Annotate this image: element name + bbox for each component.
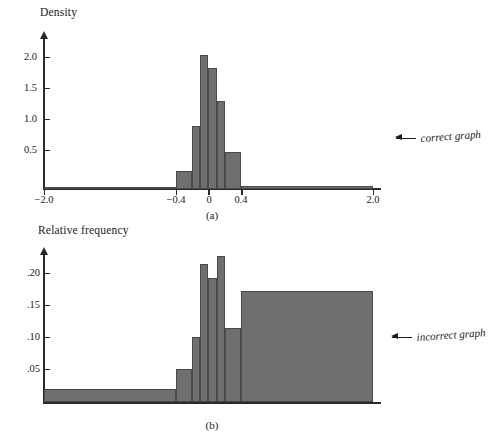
y-axis-line bbox=[43, 38, 45, 189]
y-tick-1.0 bbox=[44, 119, 50, 120]
y-tick-1.5 bbox=[44, 88, 50, 89]
bar-b-3 bbox=[192, 337, 200, 402]
x-tick-label--2.0: −2.0 bbox=[24, 194, 64, 205]
y-tick-0.5 bbox=[44, 150, 50, 151]
y-axis-title-density: Density bbox=[40, 6, 77, 18]
bar-a-3 bbox=[192, 126, 200, 189]
bar-a-7 bbox=[225, 152, 242, 189]
bar-a-5 bbox=[208, 68, 216, 188]
y-tick-label-.10: .10 bbox=[6, 331, 40, 342]
y-tick-label-.20: .20 bbox=[6, 267, 40, 278]
panel-caption-b: (b) bbox=[182, 419, 242, 431]
bar-b-2 bbox=[176, 369, 192, 402]
bar-a-6 bbox=[217, 101, 225, 189]
bar-a-4 bbox=[200, 55, 208, 189]
panel-b-relative-frequency-histogram: Relative frequency .20 .15 .10 .05 incor bbox=[0, 216, 502, 441]
y-tick-.10 bbox=[44, 337, 50, 338]
bar-a-8 bbox=[241, 186, 373, 189]
y-tick-.05 bbox=[44, 369, 50, 370]
annotation-incorrect-graph: incorrect graph bbox=[416, 326, 486, 343]
histogram-comparison-figure: Density 2.0 1.5 1.0 0.5 bbox=[0, 0, 502, 441]
x-axis-line-b bbox=[43, 402, 381, 404]
bar-b-1 bbox=[44, 389, 176, 402]
y-axis-title-relative-frequency: Relative frequency bbox=[38, 224, 129, 236]
y-tick-2.0 bbox=[44, 57, 50, 58]
bar-b-7 bbox=[225, 328, 242, 402]
annotation-correct-graph: correct graph bbox=[420, 128, 481, 144]
y-tick-label-.05: .05 bbox=[6, 363, 40, 374]
y-tick-.15 bbox=[44, 305, 50, 306]
y-tick-.20 bbox=[44, 273, 50, 274]
bar-b-8 bbox=[241, 291, 373, 402]
panel-a-density-histogram: Density 2.0 1.5 1.0 0.5 bbox=[0, 0, 502, 225]
bar-b-5 bbox=[208, 278, 216, 402]
bar-b-4 bbox=[200, 264, 208, 402]
x-tick-label-2.0: 2.0 bbox=[353, 194, 393, 205]
y-tick-label-1.0: 1.0 bbox=[3, 113, 37, 124]
incorrect-graph-arrow-icon bbox=[392, 337, 412, 338]
y-tick-label-2.0: 2.0 bbox=[3, 51, 37, 62]
y-axis-line-b bbox=[43, 254, 45, 403]
correct-graph-arrow-icon bbox=[396, 138, 416, 139]
y-tick-label-1.5: 1.5 bbox=[3, 82, 37, 93]
y-tick-label-0.5: 0.5 bbox=[3, 144, 37, 155]
bar-b-6 bbox=[217, 256, 225, 402]
bar-a-2 bbox=[176, 171, 192, 188]
bar-a-1 bbox=[44, 187, 176, 189]
y-tick-label-.15: .15 bbox=[6, 299, 40, 310]
x-tick-label-0.4: 0.4 bbox=[221, 194, 261, 205]
